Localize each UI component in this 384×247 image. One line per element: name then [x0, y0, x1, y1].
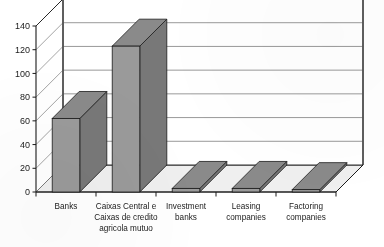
x-axis-category-label: Caixas Central e	[96, 202, 157, 211]
x-axis-category-label: Investment	[166, 202, 207, 211]
x-axis-category-label: Leasing	[232, 202, 261, 211]
y-axis-tick-label: 40	[20, 140, 30, 150]
y-axis-tick-label: 0	[25, 187, 30, 197]
y-axis-tick-label: 140	[15, 21, 30, 31]
y-axis-tick-label: 60	[20, 116, 30, 126]
y-axis-tick-label: 120	[15, 45, 30, 55]
y-axis-tick-label: 80	[20, 92, 30, 102]
y-axis-tick-label: 20	[20, 163, 30, 173]
x-axis-category-label: companies	[226, 213, 266, 222]
bar-column	[112, 19, 167, 192]
x-axis-category-label: Factoring	[289, 202, 324, 211]
chart-back-wall	[63, 0, 363, 165]
x-axis-labels: BanksCaixas Central eCaixas de creditoag…	[55, 202, 326, 233]
chart-canvas: 020406080100120140 BanksCaixas Central e…	[0, 0, 384, 247]
x-axis-category-label: agricola mutuo	[99, 224, 153, 233]
y-axis-ticks: 020406080100120140	[15, 21, 36, 197]
x-axis-ticks	[36, 192, 336, 197]
x-axis-category-label: Caixas de credito	[94, 213, 158, 222]
x-axis-category-label: banks	[175, 213, 197, 222]
x-axis-category-label: Banks	[55, 202, 78, 211]
y-axis-tick-label: 100	[15, 69, 30, 79]
bar-chart-figure: 020406080100120140 BanksCaixas Central e…	[0, 0, 384, 247]
x-axis-category-label: companies	[286, 213, 326, 222]
